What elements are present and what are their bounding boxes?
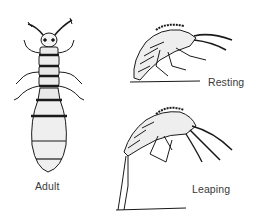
label-resting: Resting [208,76,244,88]
adult-insect-drawing [14,18,84,172]
label-adult: Adult [35,180,59,192]
label-leaping: Leaping [192,183,230,195]
resting-insect-drawing [130,25,232,82]
